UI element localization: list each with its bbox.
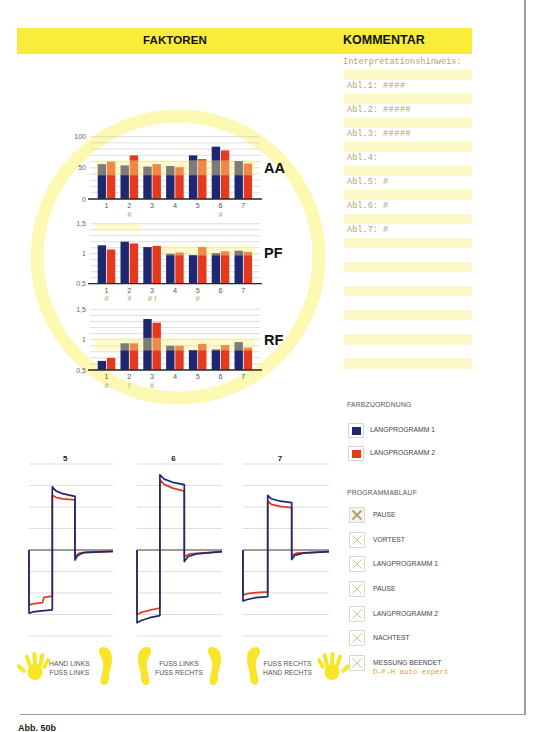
deviation-marker: # bbox=[127, 294, 132, 303]
comment-line bbox=[344, 117, 472, 128]
y-tick-label: 1 bbox=[82, 336, 86, 343]
deviation-marker: # bbox=[104, 294, 109, 303]
lead-label: Abl.5: bbox=[347, 177, 378, 187]
comment-line bbox=[344, 165, 472, 176]
report-page: FAKTOREN KOMMENTAR 05010012#3456#7AA0,51… bbox=[0, 0, 538, 732]
step-label: NACHTEST bbox=[373, 634, 410, 641]
cross-mark-icon bbox=[350, 508, 364, 522]
bar bbox=[98, 245, 106, 283]
bar bbox=[189, 350, 197, 370]
comment-line bbox=[344, 358, 472, 369]
electrode-label-line: HAND RECHTS bbox=[263, 668, 312, 677]
lead-rating: #### bbox=[383, 81, 406, 91]
comment-row-abl7: Abl.7:# bbox=[343, 224, 472, 248]
reference-band bbox=[95, 224, 141, 232]
lead-rating: ##### bbox=[383, 129, 411, 139]
bar bbox=[143, 247, 151, 284]
waveform-6: 6 bbox=[137, 454, 222, 636]
bar bbox=[107, 358, 115, 370]
legend-label: LANGPROGRAMM 2 bbox=[370, 449, 435, 456]
foot-icon bbox=[99, 647, 112, 685]
comment-row-empty bbox=[343, 248, 472, 272]
comment-row-abl1: Abl.1:#### bbox=[343, 80, 472, 104]
comment-row-empty bbox=[343, 345, 472, 369]
comment-row-interpretation: Interpretationshinweis: bbox=[343, 56, 472, 80]
electrode-label-line: FUSS LINKS bbox=[49, 668, 90, 677]
foot-icon bbox=[247, 647, 260, 685]
interpretation-heading: Interpretationshinweis: bbox=[343, 56, 472, 70]
chart-label-pf: PF bbox=[264, 245, 283, 261]
comment-line bbox=[344, 214, 472, 225]
comment-panel: Interpretationshinweis: Abl.1:#### Abl.2… bbox=[343, 56, 472, 369]
x-tick-label: 4 bbox=[173, 372, 177, 381]
right-hand-icon bbox=[316, 652, 351, 680]
waveform-5: 5 bbox=[29, 454, 113, 636]
lead-rating: # bbox=[383, 201, 389, 211]
bar-chart-rf: 0,511,51#2!3#4567RF bbox=[76, 306, 283, 390]
step-label: LANGPROGRAMM 1 bbox=[373, 560, 438, 567]
lead-label: Abl.2: bbox=[347, 105, 378, 115]
foot-icon bbox=[138, 647, 151, 685]
deviation-marker: # bbox=[127, 210, 132, 219]
bar bbox=[244, 252, 252, 284]
deviation-marker: # bbox=[150, 381, 155, 390]
comment-row-empty bbox=[343, 272, 472, 296]
waveform-title: 5 bbox=[63, 454, 68, 463]
waveform-trace bbox=[137, 480, 222, 615]
electrode-label-line: FUSS RECHTS bbox=[155, 668, 203, 677]
bar bbox=[212, 253, 220, 284]
comment-row-empty bbox=[343, 321, 472, 345]
bar bbox=[175, 253, 183, 284]
y-tick-label: 0,5 bbox=[76, 280, 86, 287]
chart-label-rf: RF bbox=[264, 332, 283, 348]
program-sequence-title: PROGRAMMABLAUF bbox=[347, 489, 417, 496]
waveform-trace bbox=[243, 501, 329, 595]
x-tick-label: 7 bbox=[241, 286, 245, 295]
step-label: PAUSE bbox=[373, 511, 396, 518]
lead-rating: ##### bbox=[383, 105, 411, 115]
color-swatch-icon bbox=[352, 450, 361, 458]
step-label: PAUSE bbox=[373, 585, 396, 592]
comment-row-abl4: Abl.4: bbox=[343, 152, 472, 176]
comment-line bbox=[344, 238, 472, 249]
bar bbox=[166, 254, 174, 284]
bar bbox=[212, 349, 220, 370]
waveform-title: 7 bbox=[278, 454, 283, 463]
x-tick-label: 4 bbox=[173, 201, 177, 210]
cross-mark-icon bbox=[350, 557, 364, 571]
y-tick-label: 50 bbox=[78, 164, 86, 171]
cross-mark-icon bbox=[350, 533, 364, 547]
comment-row-abl2: Abl.2:##### bbox=[343, 104, 472, 128]
device-name: D-F-H auto expert bbox=[373, 668, 448, 676]
comment-row-abl5: Abl.5:# bbox=[343, 176, 472, 200]
comment-line bbox=[344, 69, 472, 80]
y-tick-label: 0 bbox=[82, 196, 86, 203]
x-tick-label: 1 bbox=[105, 201, 109, 210]
step-checkbox bbox=[349, 556, 365, 572]
figure-caption: Abb. 50b bbox=[18, 723, 56, 732]
deviation-marker: # bbox=[196, 294, 201, 303]
x-tick-label: 6 bbox=[219, 286, 223, 295]
bar bbox=[130, 244, 138, 284]
comment-line bbox=[344, 334, 472, 345]
step-checkbox bbox=[349, 606, 365, 622]
bar-chart-aa: 05010012#3456#7AA bbox=[74, 133, 285, 218]
y-tick-label: 1,5 bbox=[76, 306, 86, 313]
electrode-label-line: FUSS LINKS bbox=[155, 659, 203, 668]
lead-label: Abl.7: bbox=[347, 225, 378, 235]
lead-rating: # bbox=[383, 177, 389, 187]
lead-label: Abl.4: bbox=[347, 153, 378, 163]
bar bbox=[244, 348, 252, 370]
deviation-marker: # ! bbox=[148, 294, 157, 303]
electrode-label-1: HAND LINKS FUSS LINKS bbox=[49, 659, 90, 677]
y-tick-label: 1,5 bbox=[76, 220, 86, 227]
legend-label: LANGPROGRAMM 1 bbox=[370, 426, 435, 433]
lead-label: Abl.3: bbox=[347, 129, 378, 139]
electrode-label-line: FUSS RECHTS bbox=[263, 659, 312, 668]
waveform-trace bbox=[243, 495, 329, 601]
color-swatch-icon bbox=[352, 427, 361, 435]
x-tick-label: 3 bbox=[150, 201, 154, 210]
step-label: MESSUNG BEENDET bbox=[373, 659, 441, 666]
bar-chart-pf: 0,511,51#2#3# !45#67PF bbox=[76, 220, 282, 303]
waveform-title: 6 bbox=[171, 454, 176, 463]
